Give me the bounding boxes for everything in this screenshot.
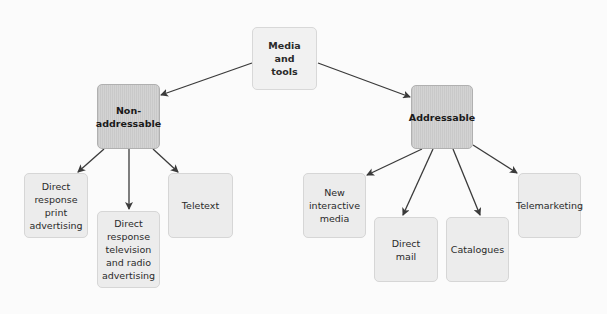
node-direct-response-print: Direct response print advertising — [24, 173, 88, 238]
node-non-addressable: Non- addressable — [97, 84, 160, 149]
node-direct-response-tv-radio: Direct response television and radio adv… — [97, 211, 160, 288]
node-label: Telemarketing — [516, 199, 583, 212]
node-label: Direct response television and radio adv… — [102, 217, 155, 282]
node-label: Addressable — [409, 111, 475, 124]
edge-nonaddr-teletext — [153, 149, 178, 172]
edge-addr-newmedia — [367, 149, 422, 175]
edge-addr-catalogues — [453, 149, 480, 215]
node-teletext: Teletext — [168, 173, 233, 238]
node-label: Teletext — [182, 199, 219, 212]
node-new-interactive-media: New interactive media — [303, 173, 366, 238]
node-addressable: Addressable — [411, 85, 473, 149]
node-label: Direct mail — [392, 237, 420, 263]
diagram-canvas: Media and tools Non- addressable Address… — [0, 0, 607, 314]
edge-nonaddr-print — [78, 149, 104, 172]
node-label: Direct response print advertising — [29, 180, 82, 232]
node-catalogues: Catalogues — [446, 217, 509, 282]
edge-addr-telemarketing — [473, 145, 517, 173]
edge-media-addr — [318, 63, 410, 97]
node-telemarketing: Telemarketing — [518, 173, 581, 238]
node-label: Media and tools — [268, 39, 300, 78]
node-label: Non- addressable — [96, 104, 161, 130]
node-label: New interactive media — [309, 186, 360, 225]
node-media-and-tools: Media and tools — [252, 27, 317, 90]
edge-media-nonaddr — [161, 63, 252, 95]
node-label: Catalogues — [451, 243, 504, 256]
edge-addr-mail — [403, 149, 433, 215]
node-direct-mail: Direct mail — [374, 217, 438, 282]
